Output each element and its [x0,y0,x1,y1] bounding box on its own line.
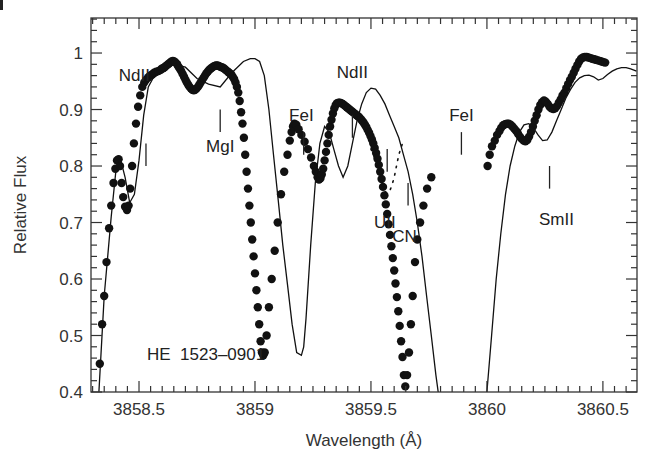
data-point [616,0,624,4]
y-tick-label: 0.4 [59,383,83,402]
data-point [280,168,288,176]
line-label: FeI [449,106,474,125]
data-point [254,303,262,311]
y-tick-label: 0.7 [59,214,83,233]
data-point [397,337,405,345]
data-point [409,292,417,300]
data-point [238,119,246,127]
data-point [389,254,397,262]
data-point [109,179,117,187]
data-point [625,0,633,4]
data-point [251,269,259,277]
data-point [390,266,398,274]
data-point [620,0,628,4]
y-axis-title: Relative Flux [11,155,30,254]
data-point [117,179,125,187]
data-point [391,279,399,287]
data-point [323,139,331,147]
line-label: FeI [289,106,314,125]
data-point [419,201,427,209]
x-tick-label: 3858.5 [113,400,165,419]
y-tick-label: 0.9 [59,101,83,120]
data-point [394,307,402,315]
x-axis-title: Wavelength (Å) [306,431,423,450]
data-point [623,0,631,4]
line-label: NdII [119,66,150,85]
data-point [107,201,115,209]
data-point [130,139,138,147]
data-point [132,119,140,127]
spectrum-chart: 3858.538593859.538603860.5 0.40.50.60.70… [0,0,672,469]
data-point [262,331,270,339]
line-identifications: NdIIMgIFeINdIIUIICNFeISmII [119,63,574,246]
data-point [631,0,639,4]
data-point [245,201,253,209]
data-point [319,165,327,173]
data-point [382,200,390,208]
data-point [240,134,248,142]
panel-corner-mark [0,0,3,10]
data-point [427,173,435,181]
data-point [618,0,626,4]
data-point [320,156,328,164]
data-point [265,303,273,311]
data-point [307,153,315,161]
data-point [134,103,142,111]
data-point [483,162,491,170]
observed-data-points [96,0,641,391]
data-point [249,252,257,260]
data-point [283,151,291,159]
data-point [627,0,635,4]
data-point [405,348,413,356]
data-point [607,0,615,4]
data-point [396,322,404,330]
data-point [632,0,640,4]
data-point [286,136,294,144]
data-point [322,148,330,156]
data-point [244,184,252,192]
y-tick-label: 1 [74,44,83,63]
data-point [605,0,613,4]
data-point [403,371,411,379]
y-tick-label: 0.5 [59,327,83,346]
data-point [242,168,250,176]
x-tick-label: 3860 [468,400,506,419]
data-point [612,0,620,4]
x-tick-label: 3859.5 [345,400,397,419]
data-point [252,286,260,294]
data-point [255,320,263,328]
data-point [380,191,388,199]
data-point [136,91,144,99]
data-point [300,138,308,146]
data-point [124,201,132,209]
data-point [603,0,611,4]
x-tick-label: 3860.5 [577,400,629,419]
data-point [407,320,415,328]
line-label: CN [392,227,417,246]
synthetic-curve [487,68,637,392]
data-point [119,193,127,201]
data-point [268,275,276,283]
data-point [608,0,616,4]
data-point [629,0,637,4]
data-point [614,0,622,4]
data-point [486,151,494,159]
data-point [248,235,256,243]
data-point [423,184,431,192]
x-tick-label: 3859 [236,400,274,419]
data-point [304,145,312,153]
line-label: MgI [206,137,234,156]
data-point [237,108,245,116]
data-point [610,0,618,4]
data-point [376,168,384,176]
data-point [393,293,401,301]
star-name-label: HE 1523–0901 [147,345,265,364]
y-tick-label: 0.8 [59,157,83,176]
data-point [234,88,242,96]
line-label: NdII [337,63,368,82]
data-point [128,162,136,170]
data-point [621,0,629,4]
data-point [247,218,255,226]
data-point [411,258,419,266]
data-point [241,151,249,159]
